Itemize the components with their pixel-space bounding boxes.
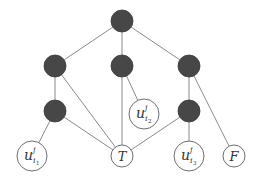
node-r1 bbox=[178, 55, 200, 77]
node-label: u bbox=[24, 147, 33, 163]
filled-node-circle bbox=[178, 55, 200, 77]
filled-node-circle bbox=[44, 100, 66, 122]
edge-top-r1 bbox=[122, 21, 189, 66]
edge-top-l1 bbox=[55, 21, 122, 66]
node-F: F bbox=[223, 145, 245, 167]
node-label-sub-subscript: 1 bbox=[36, 160, 40, 166]
filled-node-circle bbox=[178, 100, 200, 122]
node-m1 bbox=[111, 55, 133, 77]
node-label: u bbox=[136, 105, 145, 121]
node-l2 bbox=[44, 100, 66, 122]
node-T: T bbox=[111, 145, 133, 167]
filled-node-circle bbox=[44, 55, 66, 77]
node-l1 bbox=[44, 55, 66, 77]
node-label: u bbox=[181, 147, 190, 163]
nodes-layer: uji2uji1Tuji3F bbox=[17, 10, 245, 171]
node-label: T bbox=[118, 149, 128, 164]
node-top bbox=[111, 10, 133, 32]
filled-node-circle bbox=[111, 55, 133, 77]
node-r2 bbox=[178, 100, 200, 122]
edge-l2-T bbox=[55, 111, 122, 156]
node-label-sub-subscript: 3 bbox=[193, 160, 197, 166]
filled-node-circle bbox=[111, 10, 133, 32]
node-u_i2: uji2 bbox=[129, 99, 159, 129]
graph-diagram: uji2uji1Tuji3F bbox=[0, 0, 262, 184]
node-label-sub-subscript: 2 bbox=[148, 118, 152, 124]
edges-layer bbox=[32, 21, 234, 156]
node-u_i3: uji3 bbox=[174, 141, 204, 171]
node-u_i1: uji1 bbox=[17, 141, 47, 171]
graph-svg: uji2uji1Tuji3F bbox=[0, 0, 262, 184]
node-label: F bbox=[228, 149, 239, 164]
